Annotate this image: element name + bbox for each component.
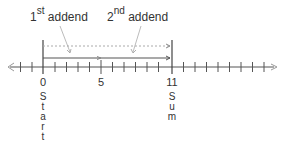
- letter: m: [167, 112, 177, 122]
- tick-label-5: 5: [98, 76, 104, 88]
- first-addend-num: 1: [30, 10, 37, 24]
- second-addend-label: 2nd addend: [107, 7, 168, 24]
- second-addend-num: 2: [107, 10, 114, 24]
- tick-label-0: 0: [40, 76, 46, 88]
- start-label: Start: [38, 92, 48, 142]
- second-addend-text: addend: [128, 10, 168, 24]
- second-addend-sup: nd: [114, 5, 125, 16]
- second-addend-pointer: [133, 26, 141, 52]
- first-addend-pointer: [60, 26, 70, 52]
- first-addend-text: addend: [48, 10, 88, 24]
- first-addend-sup: st: [37, 5, 45, 16]
- tick-label-11: 11: [166, 76, 177, 88]
- sum-label: Sum: [167, 92, 177, 122]
- letter: t: [38, 132, 48, 142]
- first-addend-label: 1st addend: [30, 7, 88, 24]
